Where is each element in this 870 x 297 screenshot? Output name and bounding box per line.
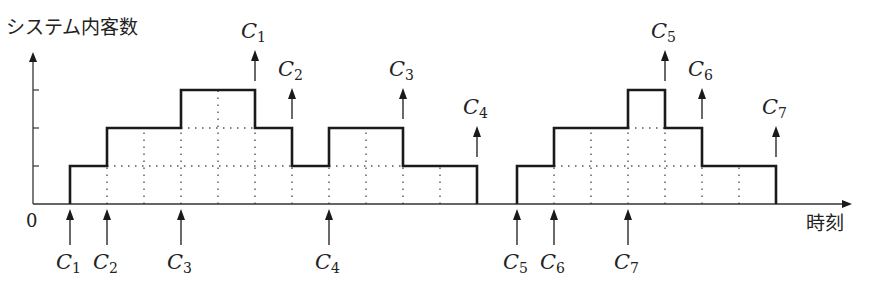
departure-arrowhead-icon	[772, 126, 780, 137]
queue-count-diagram	[0, 0, 870, 297]
departure-label: C7	[762, 95, 787, 121]
y-axis-label: システム内客数	[6, 12, 138, 39]
arrival-label: C2	[93, 250, 118, 276]
arrival-label: C3	[167, 250, 192, 276]
y-axis-arrow-icon	[29, 52, 37, 62]
departure-label: C6	[688, 57, 713, 83]
arrival-arrowhead-icon	[550, 209, 558, 220]
departure-arrowhead-icon	[473, 126, 481, 137]
departure-arrowhead-icon	[399, 88, 407, 99]
arrival-label: C1	[56, 250, 81, 276]
origin-label: 0	[26, 210, 37, 231]
x-axis-label: 時刻	[806, 208, 844, 235]
departure-arrowhead-icon	[698, 88, 706, 99]
departure-arrowhead-icon	[661, 50, 669, 61]
arrival-label: C4	[315, 250, 340, 276]
departure-label: C3	[389, 57, 414, 83]
departure-label: C4	[463, 95, 488, 121]
arrival-arrowhead-icon	[513, 209, 521, 220]
x-axis-arrow-icon	[842, 200, 852, 208]
departure-arrowhead-icon	[288, 88, 296, 99]
arrival-arrowhead-icon	[325, 209, 333, 220]
arrival-arrowhead-icon	[624, 209, 632, 220]
arrival-arrowhead-icon	[66, 209, 74, 220]
departure-label: C2	[278, 57, 303, 83]
arrival-label: C6	[540, 250, 565, 276]
arrival-label: C5	[503, 250, 528, 276]
arrival-arrowhead-icon	[103, 209, 111, 220]
arrival-label: C7	[614, 250, 639, 276]
departure-label: C1	[241, 19, 266, 45]
departure-arrowhead-icon	[251, 50, 259, 61]
arrival-arrowhead-icon	[177, 209, 185, 220]
system-count-step-line	[517, 90, 776, 204]
departure-label: C5	[651, 19, 676, 45]
system-count-step-line	[70, 90, 477, 204]
